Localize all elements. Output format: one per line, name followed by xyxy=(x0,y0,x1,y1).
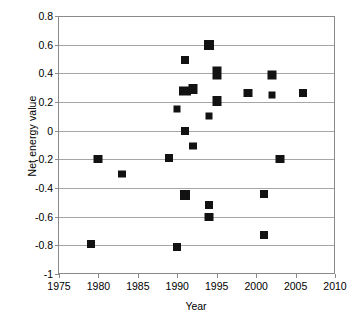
y-tick-label: -0.2 xyxy=(23,153,53,165)
y-tick xyxy=(55,73,59,74)
data-point xyxy=(180,190,190,200)
x-tick-label: 2010 xyxy=(323,280,346,292)
y-tick xyxy=(55,102,59,103)
y-tick-label: -0.4 xyxy=(23,182,53,194)
y-tick-label: -1 xyxy=(23,268,53,280)
x-axis-title: Year xyxy=(58,300,334,312)
gridline xyxy=(59,131,335,132)
x-tick-label: 2000 xyxy=(244,280,267,292)
x-tick-label: 1975 xyxy=(47,280,70,292)
data-point xyxy=(267,70,276,79)
y-tick xyxy=(55,159,59,160)
y-tick xyxy=(55,131,59,132)
plot-area: 0.80.60.40.20-0.2-0.4-0.6-0.8-1 19751980… xyxy=(58,16,334,274)
data-point xyxy=(181,127,189,135)
data-point xyxy=(268,91,275,98)
data-point xyxy=(205,201,213,209)
plot-right-border xyxy=(334,16,335,274)
data-point xyxy=(204,213,213,221)
data-point xyxy=(94,155,103,163)
y-tick xyxy=(55,45,59,46)
x-tick-label: 1980 xyxy=(87,280,110,292)
x-tick xyxy=(256,274,257,278)
data-point xyxy=(244,89,253,97)
x-tick-label: 1990 xyxy=(166,280,189,292)
data-point xyxy=(212,96,221,106)
y-tick-label: -0.6 xyxy=(23,211,53,223)
y-tick-label: 0.4 xyxy=(23,67,53,79)
x-tick xyxy=(217,274,218,278)
data-point xyxy=(87,240,95,248)
data-point xyxy=(181,56,189,64)
y-tick-label: 0.2 xyxy=(23,96,53,108)
data-point xyxy=(189,143,197,150)
x-tick-label: 1995 xyxy=(205,280,228,292)
data-point xyxy=(205,113,212,120)
y-tick-label: 0.8 xyxy=(23,10,53,22)
y-tick xyxy=(55,16,59,17)
gridline xyxy=(59,245,335,246)
y-tick xyxy=(55,245,59,246)
y-tick xyxy=(55,188,59,189)
y-tick-label: 0.6 xyxy=(23,39,53,51)
gridline xyxy=(59,102,335,103)
x-tick xyxy=(59,274,60,278)
data-point xyxy=(174,106,181,113)
x-tick xyxy=(138,274,139,278)
data-point xyxy=(299,89,307,97)
x-tick xyxy=(296,274,297,278)
data-point xyxy=(189,84,198,94)
x-tick xyxy=(335,274,336,278)
gridline xyxy=(59,73,335,74)
scatter-chart-figure: Net energy value 0.80.60.40.20-0.2-0.4-0… xyxy=(0,0,356,322)
data-point xyxy=(204,40,214,50)
gridline xyxy=(59,16,335,17)
data-point xyxy=(275,155,284,163)
x-tick xyxy=(98,274,99,278)
data-point xyxy=(173,243,181,251)
gridline xyxy=(59,217,335,218)
data-point xyxy=(165,154,173,162)
x-tick-label: 1985 xyxy=(126,280,149,292)
gridline xyxy=(59,45,335,46)
x-tick xyxy=(177,274,178,278)
data-point xyxy=(260,190,268,198)
data-point xyxy=(260,231,268,239)
data-point xyxy=(212,67,221,80)
gridline xyxy=(59,188,335,189)
y-tick-label: 0 xyxy=(23,125,53,137)
y-tick xyxy=(55,217,59,218)
data-point xyxy=(118,170,126,177)
x-tick-label: 2005 xyxy=(284,280,307,292)
y-tick-label: -0.8 xyxy=(23,239,53,251)
